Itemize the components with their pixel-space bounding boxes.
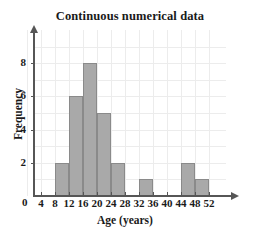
y-axis-tick (31, 163, 35, 164)
x-axis-tick (41, 192, 42, 196)
histogram-bar (83, 63, 97, 196)
x-axis-arrow-icon (231, 192, 239, 200)
gridline-vertical (27, 30, 28, 196)
histogram-bar (181, 163, 195, 196)
histogram-bar (55, 163, 69, 196)
y-axis-tick (31, 96, 35, 97)
x-axis-tick (153, 192, 154, 196)
x-axis-tick (55, 192, 56, 196)
histogram-bar (69, 96, 83, 196)
gridline-horizontal (34, 146, 226, 147)
plot-area (34, 30, 226, 196)
gridline-horizontal (34, 63, 226, 64)
y-axis-title: Frequency (12, 64, 24, 164)
gridline-horizontal (34, 80, 226, 81)
gridline-horizontal (34, 113, 226, 114)
x-axis-tick (195, 192, 196, 196)
histogram-chart: Continuous numerical data 0 Age (years) … (0, 0, 260, 235)
y-axis-tick-label: 4 (12, 124, 26, 135)
histogram-bar (111, 163, 125, 196)
x-axis-tick-label: 52 (198, 197, 220, 210)
y-axis-tick-label: 8 (12, 57, 26, 68)
gridline-horizontal (34, 96, 226, 97)
x-axis-tick (139, 192, 140, 196)
histogram-bar (195, 179, 209, 196)
x-axis-tick (167, 192, 168, 196)
y-axis-tick (31, 130, 35, 131)
origin-label: 0 (22, 196, 28, 208)
histogram-bar (97, 113, 111, 196)
y-axis-line (33, 32, 35, 197)
gridline-horizontal (34, 47, 226, 48)
gridline-horizontal (34, 130, 226, 131)
x-axis-tick (97, 192, 98, 196)
x-axis-title: Age (years) (0, 214, 250, 226)
x-axis-tick (125, 192, 126, 196)
x-axis-tick (69, 192, 70, 196)
x-axis-tick (181, 192, 182, 196)
histogram-bar (139, 179, 153, 196)
y-axis-tick-label: 2 (12, 157, 26, 168)
x-axis-tick (209, 192, 210, 196)
chart-title: Continuous numerical data (0, 9, 260, 24)
y-axis-tick (31, 63, 35, 64)
x-axis-tick (111, 192, 112, 196)
y-axis-arrow-icon (30, 25, 38, 33)
y-axis-tick-label: 6 (12, 90, 26, 101)
x-axis-tick (83, 192, 84, 196)
